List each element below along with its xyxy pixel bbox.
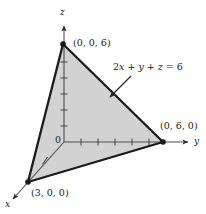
vertex-dot-y (160, 139, 166, 145)
vertex-dot-x (25, 179, 31, 185)
plane-figure: z y x 0 (0, 0, 6) (0, 6, 0) (3, 0, 0) 2x… (0, 0, 206, 214)
equation-pointer-arrow (110, 76, 131, 97)
vertex-dot-z (60, 41, 66, 47)
figure-graphic (0, 0, 206, 214)
